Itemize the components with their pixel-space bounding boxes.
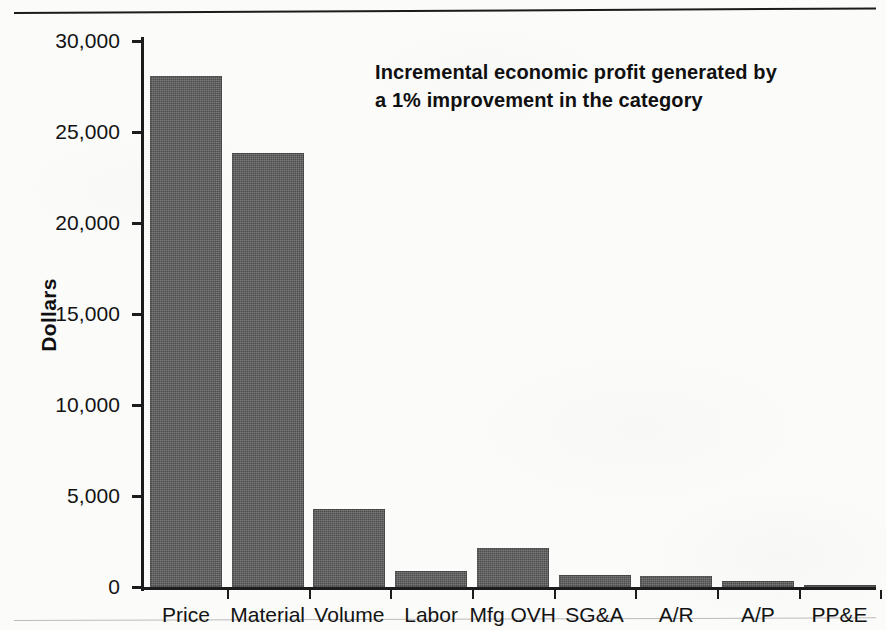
x-axis-tick-label: Mfg OVH xyxy=(470,603,556,627)
chart-annotation: Incremental economic profit generated by… xyxy=(375,58,855,114)
top-divider-rule xyxy=(14,7,876,14)
x-axis-tick xyxy=(880,590,882,599)
bar xyxy=(722,581,794,587)
bar xyxy=(313,509,385,587)
x-axis-tick-label: A/P xyxy=(741,603,775,627)
bar xyxy=(395,571,467,587)
y-axis-tick-label: 5,000 xyxy=(67,484,120,508)
x-axis-tick xyxy=(554,590,556,599)
y-axis-tick xyxy=(132,222,141,225)
x-axis-tick-label: Labor xyxy=(404,603,458,627)
bar xyxy=(559,575,631,587)
y-axis-tick xyxy=(132,404,141,407)
y-axis-tick xyxy=(132,40,141,43)
chart-figure: Dollars 05,00010,00015,00020,00025,00030… xyxy=(0,0,886,630)
y-axis-tick xyxy=(132,586,141,589)
y-axis-tick-label: 30,000 xyxy=(55,29,120,53)
bar xyxy=(804,585,876,587)
x-axis-tick-label: Volume xyxy=(314,603,384,627)
y-axis-tick-label: 15,000 xyxy=(55,302,120,326)
y-axis-tick-label: 0 xyxy=(108,575,120,599)
x-axis-tick xyxy=(717,590,719,599)
x-axis-tick xyxy=(472,590,474,599)
bar xyxy=(477,548,549,587)
annotation-line: a 1% improvement in the category xyxy=(375,86,855,114)
x-axis-tick-label: SG&A xyxy=(565,603,623,627)
x-axis-tick-label: Material xyxy=(230,603,305,627)
bar xyxy=(640,576,712,587)
y-axis-tick xyxy=(132,131,141,134)
annotation-line: Incremental economic profit generated by xyxy=(375,58,855,86)
x-axis-tick xyxy=(635,590,637,599)
y-axis-tick-label: 25,000 xyxy=(55,120,120,144)
y-axis-tick-label: 10,000 xyxy=(55,393,120,417)
x-axis-line xyxy=(141,587,876,590)
bar xyxy=(232,153,304,587)
x-axis-tick xyxy=(390,590,392,599)
y-axis-tick xyxy=(132,313,141,316)
plot-area: 05,00010,00015,00020,00025,00030,000 Pri… xyxy=(141,41,876,587)
x-axis-tick-label: Price xyxy=(162,603,210,627)
y-axis-tick xyxy=(132,495,141,498)
x-axis-tick-label: PP&E xyxy=(812,603,868,627)
x-axis-tick-label: A/R xyxy=(659,603,694,627)
x-axis-tick xyxy=(799,590,801,599)
y-axis-tick-label: 20,000 xyxy=(55,211,120,235)
bars-group xyxy=(141,41,876,587)
x-axis-tick xyxy=(227,590,229,599)
bar xyxy=(150,76,222,587)
x-axis-tick xyxy=(309,590,311,599)
